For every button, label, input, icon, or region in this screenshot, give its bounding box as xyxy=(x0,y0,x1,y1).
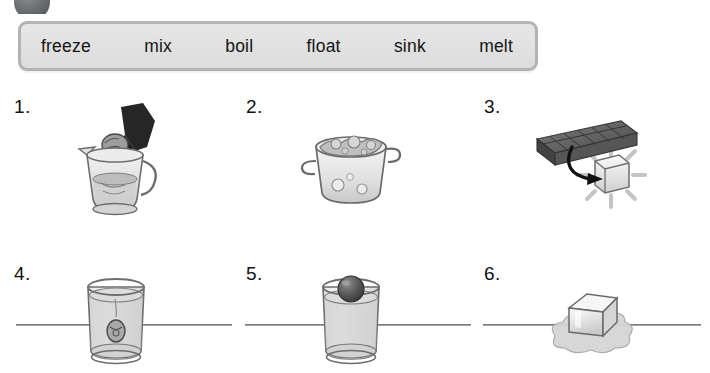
exercise-item-2[interactable]: 2. xyxy=(232,88,470,228)
exercise-badge-circle xyxy=(14,0,50,14)
exercise-item-5[interactable]: 5. xyxy=(232,249,470,373)
word-option-mix[interactable]: mix xyxy=(144,36,172,57)
boiling-pot-icon xyxy=(232,94,470,224)
exercise-item-6[interactable]: 6. xyxy=(470,249,710,373)
word-option-melt[interactable]: melt xyxy=(479,36,513,57)
word-option-freeze[interactable]: freeze xyxy=(41,36,91,57)
exercise-item-1[interactable]: 1. xyxy=(0,88,232,228)
word-bank-list: freeze mix boil float sink melt xyxy=(21,36,535,57)
exercise-row-2: 4. xyxy=(0,249,710,373)
exercise-item-4[interactable]: 4. xyxy=(0,249,232,373)
word-bank: freeze mix boil float sink melt xyxy=(18,21,538,71)
object-sinking-in-glass-icon xyxy=(0,255,232,373)
ball-floating-in-glass-icon xyxy=(232,255,470,373)
exercise-grid: 1. xyxy=(0,88,710,373)
word-option-float[interactable]: float xyxy=(307,36,341,57)
word-option-boil[interactable]: boil xyxy=(225,36,253,57)
exercise-item-3[interactable]: 3. xyxy=(470,88,710,228)
melting-ice-cube-icon xyxy=(470,255,710,373)
exercise-row-1: 1. xyxy=(0,88,710,228)
exercise-badge xyxy=(14,0,50,14)
hand-stirring-pitcher-icon xyxy=(0,94,232,224)
ice-cube-tray-icon xyxy=(470,94,710,224)
word-option-sink[interactable]: sink xyxy=(394,36,426,57)
